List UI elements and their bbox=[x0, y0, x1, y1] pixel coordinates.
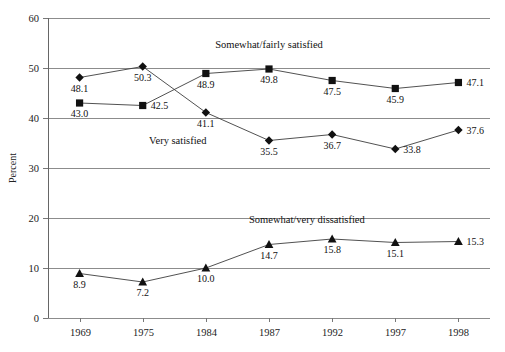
y-tick-label-60: 60 bbox=[29, 13, 40, 24]
data-label-1969-1: 43.0 bbox=[71, 108, 89, 119]
x-tick-label-1997: 1997 bbox=[385, 327, 406, 338]
data-label-1998-1: 47.1 bbox=[466, 77, 484, 88]
marker-square-1987 bbox=[265, 65, 272, 72]
marker-square-1975 bbox=[139, 102, 146, 109]
x-tick-label-1969: 1969 bbox=[70, 327, 91, 338]
data-label-1987-1: 49.8 bbox=[260, 74, 278, 85]
data-label-1987-0: 35.5 bbox=[260, 146, 278, 157]
data-label-1992-2: 15.8 bbox=[323, 244, 341, 255]
marker-square-1998 bbox=[455, 79, 462, 86]
y-tick-label-50: 50 bbox=[29, 63, 40, 74]
data-label-1997-1: 45.9 bbox=[387, 94, 405, 105]
annotation-1: Very satisfied bbox=[149, 135, 207, 146]
x-tick-label-1998: 1998 bbox=[448, 327, 469, 338]
line-chart-canvas: 0102030405060 19691975198419871992199719… bbox=[0, 0, 505, 352]
data-label-1975-2: 7.2 bbox=[136, 287, 149, 298]
data-label-1997-2: 15.1 bbox=[387, 248, 405, 259]
marker-square-1969 bbox=[76, 99, 83, 106]
x-tick-label-1984: 1984 bbox=[196, 327, 218, 338]
data-label-1975-0: 50.3 bbox=[134, 72, 152, 83]
annotation-2: Somewhat/very dissatisfied bbox=[249, 214, 366, 225]
y-axis-title-text: Percent bbox=[7, 153, 18, 183]
y-axis-title: Percent bbox=[7, 153, 18, 183]
chart-background bbox=[0, 0, 505, 352]
data-label-1998-0: 37.6 bbox=[466, 125, 484, 136]
data-label-1969-2: 8.9 bbox=[73, 279, 86, 290]
data-label-1984-1: 48.9 bbox=[197, 79, 215, 90]
y-tick-label-0: 0 bbox=[34, 313, 39, 324]
data-label-1969-0: 48.1 bbox=[71, 83, 89, 94]
x-tick-label-1987: 1987 bbox=[259, 327, 280, 338]
marker-square-1984 bbox=[202, 70, 209, 77]
data-label-1975-1: 42.5 bbox=[151, 100, 169, 111]
data-label-1997-0: 33.8 bbox=[403, 144, 421, 155]
y-tick-label-30: 30 bbox=[29, 163, 40, 174]
data-label-1984-0: 41.1 bbox=[197, 118, 215, 129]
data-label-1998-2: 15.3 bbox=[466, 236, 484, 247]
y-tick-label-20: 20 bbox=[29, 213, 40, 224]
x-tick-label-1975: 1975 bbox=[133, 327, 154, 338]
x-tick-label-1992: 1992 bbox=[322, 327, 343, 338]
chart-figure: 0102030405060 19691975198419871992199719… bbox=[0, 0, 505, 352]
marker-square-1997 bbox=[392, 85, 399, 92]
annotation-0: Somewhat/fairly satisfied bbox=[215, 39, 323, 50]
data-label-1987-2: 14.7 bbox=[260, 250, 278, 261]
data-label-1992-0: 36.7 bbox=[323, 140, 341, 151]
marker-square-1992 bbox=[329, 77, 336, 84]
y-tick-label-40: 40 bbox=[29, 113, 40, 124]
y-tick-label-10: 10 bbox=[29, 263, 40, 274]
data-label-1984-2: 10.0 bbox=[197, 273, 215, 284]
data-label-1992-1: 47.5 bbox=[323, 86, 341, 97]
